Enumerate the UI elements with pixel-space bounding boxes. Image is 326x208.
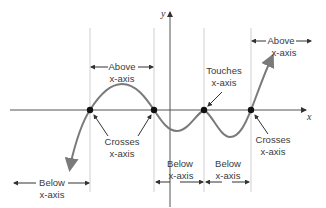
- intercept-point: [201, 107, 207, 113]
- region-label: Above: [109, 61, 136, 72]
- region-below-left: Below x-axis: [14, 177, 89, 200]
- pointer-arrow-icon: [138, 115, 151, 136]
- region-label: Below: [215, 158, 241, 169]
- annotation-sublabel: x-axis: [110, 148, 135, 159]
- region-sublabel: x-axis: [40, 189, 65, 200]
- region-label: Below: [167, 158, 193, 169]
- region-sublabel: x-axis: [110, 73, 135, 84]
- region-label: Above: [268, 35, 295, 46]
- y-axis-label: y: [160, 8, 166, 19]
- annotation-label: Crosses: [105, 136, 140, 147]
- pointer-arrow-icon: [94, 115, 108, 136]
- intercept-point: [248, 107, 254, 113]
- pointer-arrow-icon: [208, 92, 222, 106]
- x-axis-label: x: [306, 111, 312, 122]
- region-above-right: Above x-axis: [252, 35, 311, 58]
- region-above-left: Above x-axis: [91, 61, 153, 84]
- region-label: Below: [39, 177, 65, 188]
- region-sublabel: x-axis: [272, 47, 297, 58]
- region-sublabel: x-axis: [216, 170, 241, 181]
- annotation-crosses-right: Crosses x-axis: [255, 115, 291, 157]
- pointer-arrow-icon: [255, 115, 268, 134]
- annotation-label: Touches: [206, 65, 242, 76]
- annotation-touches: Touches x-axis: [206, 65, 242, 106]
- intercept-point: [151, 107, 157, 113]
- region-below-mid1: Below x-axis: [156, 158, 203, 182]
- curve-end-arrow-icon: [70, 162, 71, 168]
- intercept-point: [87, 107, 93, 113]
- annotation-label: Crosses: [256, 134, 291, 145]
- polynomial-behavior-diagram: x y Above x-axis Above x-axis Touches x-…: [0, 0, 326, 208]
- region-below-mid2: Below x-axis: [206, 158, 249, 182]
- annotation-sublabel: x-axis: [212, 77, 237, 88]
- region-sublabel: x-axis: [169, 170, 194, 181]
- annotation-sublabel: x-axis: [261, 146, 286, 157]
- annotation-crosses-left: Crosses x-axis: [94, 115, 151, 159]
